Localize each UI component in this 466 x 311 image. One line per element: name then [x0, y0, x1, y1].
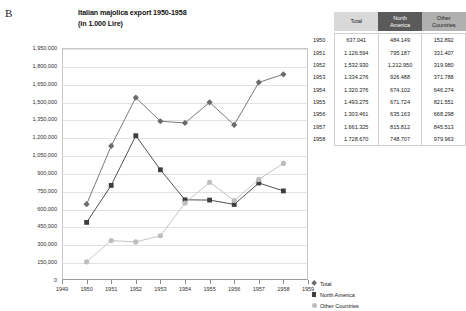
- y-axis-tick-label: 750,000: [37, 188, 57, 194]
- data-point-marker: [207, 198, 212, 203]
- diamond-marker-icon: [308, 281, 320, 285]
- table-cell-north-america: 795.187: [378, 46, 422, 58]
- y-axis-tick-label: 1,350,000: [33, 116, 57, 122]
- table-cell-other-countries: 371.788: [422, 71, 466, 83]
- table-cell-other-countries: 319.980: [422, 59, 466, 71]
- y-axis-tick-label: 600,000: [37, 206, 57, 212]
- line-chart: 0150,000300,000450,000600,000750,000900,…: [0, 40, 330, 296]
- y-axis-tick-label: 300,000: [37, 241, 57, 247]
- table-cell-north-america: 674.102: [378, 84, 422, 96]
- y-axis-tick-label: 1,800,000: [33, 63, 57, 69]
- chart-legend: TotalNorth AmericaOther Countries: [308, 278, 388, 311]
- legend-item: North America: [308, 289, 388, 300]
- x-axis-tick: [210, 280, 211, 284]
- table-header-total: Total: [334, 12, 378, 31]
- data-point-marker: [108, 143, 114, 149]
- x-axis-tick-label: 1949: [56, 286, 68, 292]
- table-row: 19561.303.461635.163668.298: [313, 108, 466, 120]
- table-row: 19581.728.670748.707979.963: [313, 133, 466, 146]
- legend-item: Total: [308, 278, 388, 289]
- x-axis-tick-label: 1956: [228, 286, 240, 292]
- series-line: [87, 163, 284, 261]
- table-cell-other-countries: 152.892: [422, 34, 466, 47]
- y-axis-tick-label: 450,000: [37, 223, 57, 229]
- x-axis-tick-label: 1953: [154, 286, 166, 292]
- x-axis-labels: 1949195019511952195319541955195619571958…: [62, 280, 308, 298]
- table-cell-other-countries: 845.513: [422, 121, 466, 133]
- table-head: Total NorthAmerica OtherCountries: [313, 12, 466, 34]
- table-row: 19531.334.276926.488371.788: [313, 71, 466, 83]
- x-axis-tick: [234, 280, 235, 284]
- table-cell-north-america: 671.724: [378, 96, 422, 108]
- table-cell-total: 1.661.325: [334, 121, 378, 133]
- data-point-marker: [133, 239, 138, 244]
- table-cell-year: 1955: [313, 96, 334, 108]
- legend-item-label: Other Countries: [320, 303, 359, 309]
- data-point-marker: [84, 259, 89, 264]
- data-point-marker: [158, 167, 163, 172]
- table-cell-total: 1.126.594: [334, 46, 378, 58]
- series-total: [84, 71, 287, 207]
- table-cell-north-america: 484.149: [378, 34, 422, 47]
- table-cell-total: 637.041: [334, 34, 378, 47]
- table-row: 19541.320.376674.102646.274: [313, 84, 466, 96]
- data-point-marker: [280, 71, 286, 77]
- figure-label: B: [5, 7, 12, 19]
- data-point-marker: [256, 79, 262, 85]
- table-cell-north-america: 635.163: [378, 108, 422, 120]
- table-cell-year: 1957: [313, 121, 334, 133]
- y-axis-tick-label: 1,500,000: [33, 99, 57, 105]
- data-point-marker: [133, 133, 138, 138]
- y-axis-tick-label: 0: [54, 277, 57, 283]
- table-cell-total: 1.303.461: [334, 108, 378, 120]
- x-axis-tick: [62, 280, 63, 284]
- table-cell-north-america: 926.488: [378, 71, 422, 83]
- x-axis-tick-label: 1951: [105, 286, 117, 292]
- table-header-north-america: NorthAmerica: [378, 12, 422, 31]
- x-axis-tick-label: 1955: [203, 286, 215, 292]
- x-axis-tick: [136, 280, 137, 284]
- x-axis-tick-label: 1958: [277, 286, 289, 292]
- table-header-row: Total NorthAmerica OtherCountries: [313, 12, 466, 31]
- legend-item-label: North America: [320, 292, 355, 298]
- table-cell-year: 1952: [313, 59, 334, 71]
- table-cell-north-america: 748.707: [378, 133, 422, 146]
- data-point-marker: [84, 220, 89, 225]
- data-point-marker: [256, 177, 261, 182]
- y-axis-tick-label: 150,000: [37, 259, 57, 265]
- x-axis-tick-label: 1952: [130, 286, 142, 292]
- table-cell-total: 1.334.276: [334, 71, 378, 83]
- table-cell-north-america: 815.812: [378, 121, 422, 133]
- data-point-marker: [281, 189, 286, 194]
- series-line: [87, 74, 284, 204]
- x-axis-tick: [185, 280, 186, 284]
- data-point-marker: [207, 180, 212, 185]
- data-point-marker: [109, 238, 114, 243]
- table-row: 19571.661.325815.812845.513: [313, 121, 466, 133]
- legend-item-label: Total: [320, 281, 332, 287]
- x-axis-tick-label: 1957: [253, 286, 265, 292]
- table-cell-year: 1958: [313, 133, 334, 146]
- table-row: 19511.126.594795.187331.407: [313, 46, 466, 58]
- table-cell-other-countries: 979.963: [422, 133, 466, 146]
- chart-title-line-2: (in 1.000 Lire): [78, 18, 187, 29]
- chart-title: Italian majolica export 1950-1958 (in 1.…: [78, 7, 187, 29]
- circle-marker-icon: [308, 303, 320, 308]
- x-axis-tick: [283, 280, 284, 284]
- data-point-marker: [158, 233, 163, 238]
- table-cell-year: 1951: [313, 46, 334, 58]
- legend-item: Other Countries: [308, 300, 388, 311]
- table-cell-north-america: 1.212.950: [378, 59, 422, 71]
- y-axis-tick-label: 1,650,000: [33, 81, 57, 87]
- table-cell-other-countries: 668.298: [422, 108, 466, 120]
- table-row: 19551.493.275671.724821.551: [313, 96, 466, 108]
- x-axis-tick-label: 1954: [179, 286, 191, 292]
- data-point-marker: [84, 201, 90, 207]
- table-body: 1950637.041484.149152.89219511.126.59479…: [313, 34, 466, 146]
- table-header-other-countries: OtherCountries: [422, 12, 466, 31]
- table-cell-other-countries: 821.551: [422, 96, 466, 108]
- y-axis-tick-label: 1,050,000: [33, 152, 57, 158]
- y-axis-tick-label: 1,950,000: [33, 45, 57, 51]
- table-cell-total: 1.320.376: [334, 84, 378, 96]
- data-point-marker: [182, 201, 187, 206]
